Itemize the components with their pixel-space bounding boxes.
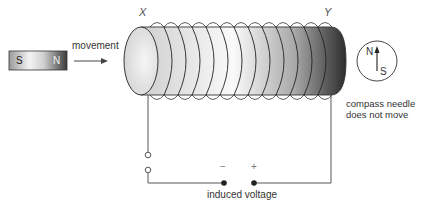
induced-voltage-label: induced voltage: [207, 189, 277, 200]
compass-north-label: N: [366, 46, 373, 57]
compass-icon: [357, 41, 397, 81]
compass-caption-line2: does not move: [346, 109, 408, 120]
magnet-north-label: N: [53, 55, 60, 66]
coil-solenoid: [124, 23, 346, 100]
positive-sign-label: +: [251, 161, 257, 172]
negative-terminal: [221, 180, 227, 186]
compass-south-label: S: [380, 66, 387, 77]
switch-contacts: [145, 152, 151, 173]
movement-label: movement: [72, 40, 119, 51]
coil-end-x-label: X: [139, 7, 146, 18]
coil-end-y-label: Y: [324, 7, 331, 18]
coil-end-face: [124, 27, 158, 95]
movement-arrow-icon: [74, 58, 108, 64]
voltage-terminals: [221, 180, 257, 186]
positive-terminal: [251, 180, 257, 186]
negative-sign-label: −: [220, 161, 226, 172]
magnet-south-label: S: [16, 55, 23, 66]
compass-caption-line1: compass needle: [346, 98, 415, 109]
circuit-wire: [148, 95, 331, 183]
